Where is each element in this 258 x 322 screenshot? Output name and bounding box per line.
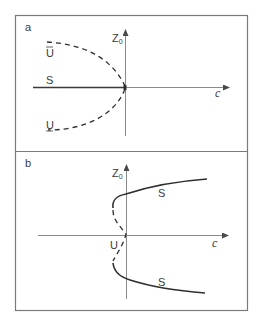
- panel-a: a U S U Z0 c: [25, 21, 229, 136]
- panel-b-upper-s-label: S: [158, 187, 165, 199]
- panel-a-bifurcation-point: [124, 85, 127, 90]
- panel-b: b Z0 S U c S: [25, 157, 228, 299]
- panel-b-u-label: U: [110, 239, 118, 251]
- panel-a-z0-label: Z0: [112, 32, 123, 45]
- panel-a-lower-u-label: U: [46, 119, 54, 131]
- panel-a-label: a: [25, 21, 32, 33]
- panel-b-label: b: [25, 157, 31, 169]
- panel-b-lower-s-label: S: [158, 276, 165, 288]
- panel-a-s-label: S: [46, 74, 53, 86]
- panel-a-lower-unstable-branch: [48, 89, 125, 130]
- bifurcation-diagram: a U S U Z0 c b Z0 S U c S: [0, 0, 258, 322]
- panel-a-upper-u-label: U: [46, 47, 54, 59]
- figure-frame: [16, 16, 248, 311]
- panel-a-upper-unstable-branch: [47, 42, 125, 86]
- panel-b-c-label: c: [212, 236, 218, 250]
- panel-a-c-label: c: [215, 86, 221, 100]
- panel-b-z0-label: Z0: [112, 167, 123, 180]
